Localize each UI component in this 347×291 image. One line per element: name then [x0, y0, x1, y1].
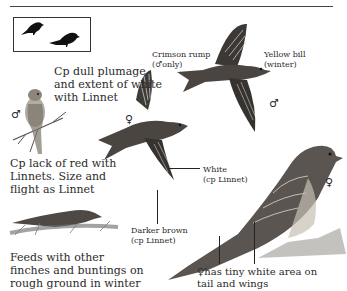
note-line: rough ground in winter [10, 278, 144, 291]
flying-male-illustration [175, 22, 295, 132]
white-note: White (cp Linnet) [203, 165, 248, 185]
note-line: (cp Linnet) [203, 175, 248, 185]
finch-silhouettes-icon [14, 18, 89, 50]
darker-brown-note: Darker brown (cp Linnet) [131, 226, 188, 246]
yellow-bill-note: Yellow bill (winter) [264, 50, 305, 70]
note-line: flight as Linnet [10, 184, 116, 197]
female-symbol-icon: ♀ [325, 176, 333, 189]
note-line: ♀has tiny white area on [197, 266, 317, 278]
note-line: finches and buntings on [10, 265, 144, 278]
tail-leader-line-2 [254, 222, 255, 264]
note-line: Crimson rump [152, 50, 210, 60]
header-rule [10, 6, 333, 7]
note-line: Yellow bill [264, 50, 305, 60]
note-line: and extent of white [54, 79, 162, 92]
feeds-note: Feeds with other finches and buntings on… [10, 252, 144, 291]
female-symbol-icon: ♀ [125, 113, 133, 126]
note-line: (cp Linnet) [131, 236, 188, 246]
note-line: Darker brown [131, 226, 188, 236]
white-leader-line [168, 168, 200, 169]
silhouette-box [13, 17, 91, 52]
note-line: Linnets. Size and [10, 171, 116, 184]
male-symbol-icon: ♂ [269, 97, 279, 110]
tail-leader-line-1 [219, 236, 220, 264]
note-line: White [203, 165, 248, 175]
note-line: (winter) [264, 60, 305, 70]
cp-lack-note: Cp lack of red with Linnets. Size and fl… [10, 158, 116, 197]
note-line: tail and wings [197, 278, 317, 290]
female-tail-note: ♀has tiny white area on tail and wings [197, 266, 317, 290]
perched-female-illustration [168, 138, 347, 280]
note-line: with Linnet [54, 92, 162, 105]
male-symbol-icon: ♂ [11, 108, 21, 121]
darker-brown-leader-line [157, 190, 158, 224]
feeding-bird-illustration [10, 205, 120, 240]
cp-dull-note: Cp dull plumage and extent of white with… [54, 66, 162, 105]
